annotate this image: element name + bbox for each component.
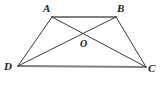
vertex-label-b: B — [117, 3, 124, 14]
segment-side-DC — [18, 66, 146, 67]
vertex-label-a: A — [43, 3, 50, 14]
vertex-label-o: O — [80, 38, 87, 49]
segment-leg-AD — [18, 17, 52, 66]
vertex-label-c: C — [148, 63, 155, 74]
vertex-label-d: D — [4, 61, 12, 72]
segment-diagonal-BD — [18, 17, 116, 66]
geometry-figure: A B C D O — [0, 0, 162, 85]
